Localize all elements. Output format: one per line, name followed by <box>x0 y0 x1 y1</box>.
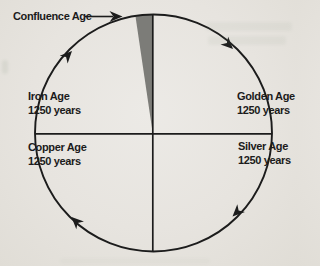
copper-age-label: Copper Age 1250 years <box>28 141 86 168</box>
cycle-diagram-canvas <box>0 0 296 266</box>
copper-age-name: Copper Age <box>28 141 86 155</box>
clockwise-arrowhead-upper-right-icon <box>221 37 237 53</box>
cycle-diagram: Confluence Age Iron Age 1250 years Golde… <box>0 0 296 266</box>
iron-age-name: Iron Age <box>28 90 81 104</box>
silver-age-duration: 1250 years <box>238 154 291 168</box>
iron-age-label: Iron Age 1250 years <box>28 90 81 117</box>
golden-age-label: Golden Age 1250 years <box>237 90 295 117</box>
clockwise-arrowhead-upper-left-icon <box>60 47 76 63</box>
confluence-age-name: Confluence Age <box>13 10 91 24</box>
golden-age-duration: 1250 years <box>237 104 295 118</box>
golden-age-name: Golden Age <box>237 90 295 104</box>
iron-age-duration: 1250 years <box>28 104 81 118</box>
silver-age-label: Silver Age 1250 years <box>238 140 291 167</box>
copper-age-duration: 1250 years <box>28 155 86 169</box>
confluence-age-label: Confluence Age <box>13 10 91 24</box>
confluence-wedge <box>136 15 153 134</box>
silver-age-name: Silver Age <box>238 140 291 154</box>
